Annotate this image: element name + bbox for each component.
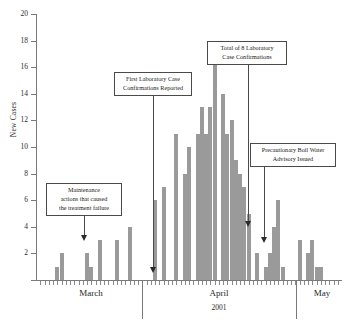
y-tick-18 bbox=[31, 41, 36, 42]
leader-maintenance bbox=[84, 215, 85, 237]
y-tick-label-10: 10 bbox=[2, 143, 28, 151]
bar bbox=[213, 41, 217, 280]
arrow-first-confirmation bbox=[150, 267, 156, 273]
x-tick bbox=[168, 281, 169, 285]
x-tick bbox=[210, 281, 211, 285]
bar bbox=[255, 253, 259, 280]
x-tick bbox=[117, 281, 118, 285]
x-tick bbox=[62, 281, 63, 285]
y-tick-label-14: 14 bbox=[2, 90, 28, 98]
month-separator-march-april bbox=[142, 281, 143, 319]
x-tick bbox=[130, 281, 131, 285]
y-tick-8 bbox=[31, 174, 36, 175]
x-tick bbox=[113, 281, 114, 285]
x-tick bbox=[49, 281, 50, 285]
bar bbox=[115, 240, 119, 280]
x-tick bbox=[134, 281, 135, 285]
y-tick-label-6: 6 bbox=[2, 196, 28, 204]
x-tick bbox=[198, 281, 199, 285]
annotation-first-confirmation-line2: Confirmations Reported bbox=[118, 84, 188, 93]
month-separator-april-may bbox=[296, 281, 297, 319]
bar bbox=[174, 134, 178, 280]
annotation-first-confirmation-line1: First Laboratory Case bbox=[118, 75, 188, 84]
bar bbox=[89, 267, 93, 280]
x-tick bbox=[176, 281, 177, 285]
annotation-total-confirmations-line1: Total of 8 Laboratory bbox=[211, 44, 283, 53]
x-tick bbox=[287, 281, 288, 285]
y-tick-20 bbox=[31, 14, 36, 15]
bar bbox=[60, 253, 64, 280]
bar bbox=[298, 240, 302, 280]
leader-boil-water bbox=[264, 165, 265, 239]
y-tick-label-16: 16 bbox=[2, 63, 28, 71]
x-tick bbox=[244, 281, 245, 285]
x-tick bbox=[108, 281, 109, 285]
x-tick bbox=[312, 281, 313, 285]
x-tick bbox=[74, 281, 75, 285]
x-tick bbox=[317, 281, 318, 285]
x-tick bbox=[138, 281, 139, 285]
annotation-boil-water-line2: Advisory Issued bbox=[254, 155, 332, 164]
bar bbox=[98, 240, 102, 280]
x-tick bbox=[232, 281, 233, 285]
x-tick bbox=[240, 281, 241, 285]
x-tick bbox=[155, 281, 156, 285]
x-tick bbox=[308, 281, 309, 285]
x-tick bbox=[159, 281, 160, 285]
x-tick bbox=[189, 281, 190, 285]
y-tick-6 bbox=[31, 200, 36, 201]
x-tick bbox=[329, 281, 330, 285]
x-tick bbox=[236, 281, 237, 285]
arrow-total-confirmations bbox=[245, 221, 251, 227]
leader-first-confirmation bbox=[153, 93, 154, 269]
x-tick bbox=[291, 281, 292, 285]
y-tick-label-18: 18 bbox=[2, 37, 28, 45]
y-tick-label-2: 2 bbox=[2, 249, 28, 257]
x-tick bbox=[334, 281, 335, 285]
leader-total-confirmations bbox=[248, 62, 249, 223]
annotation-boil-water-line1: Precautionary Boil Water bbox=[254, 146, 332, 155]
arrow-boil-water bbox=[261, 237, 267, 243]
x-tick bbox=[172, 281, 173, 285]
bar bbox=[187, 147, 191, 280]
x-tick bbox=[223, 281, 224, 285]
y-tick-label-8: 8 bbox=[2, 170, 28, 178]
x-tick bbox=[40, 281, 41, 285]
annotation-maintenance-line2: actions that caused bbox=[50, 195, 118, 204]
month-label-may: May bbox=[300, 288, 344, 298]
y-tick-12 bbox=[31, 120, 36, 121]
month-label-april: April bbox=[184, 288, 254, 298]
x-tick bbox=[181, 281, 182, 285]
x-tick bbox=[193, 281, 194, 285]
y-tick-label-12: 12 bbox=[2, 116, 28, 124]
x-tick bbox=[83, 281, 84, 285]
y-tick-label-4: 4 bbox=[2, 223, 28, 231]
x-tick bbox=[45, 281, 46, 285]
arrow-maintenance bbox=[81, 235, 87, 241]
bar bbox=[128, 227, 132, 280]
x-tick bbox=[274, 281, 275, 285]
x-tick bbox=[206, 281, 207, 285]
x-tick bbox=[87, 281, 88, 285]
annotation-total-confirmations-line2: Case Confirmations bbox=[211, 53, 283, 62]
x-tick bbox=[257, 281, 258, 285]
x-tick bbox=[164, 281, 165, 285]
x-tick bbox=[325, 281, 326, 285]
x-tick bbox=[219, 281, 220, 285]
y-tick-16 bbox=[31, 67, 36, 68]
x-tick bbox=[278, 281, 279, 285]
y-tick-14 bbox=[31, 94, 36, 95]
x-tick bbox=[300, 281, 301, 285]
annotation-maintenance-line3: the treatment failure bbox=[50, 204, 118, 213]
x-tick bbox=[215, 281, 216, 285]
x-tick bbox=[202, 281, 203, 285]
x-tick bbox=[100, 281, 101, 285]
x-tick bbox=[270, 281, 271, 285]
x-tick bbox=[53, 281, 54, 285]
epidemic-curve-chart: New Cases 2468101214161820 March April M… bbox=[0, 0, 348, 326]
x-tick bbox=[338, 281, 339, 285]
x-tick bbox=[151, 281, 152, 285]
x-tick bbox=[66, 281, 67, 285]
y-axis-spine bbox=[36, 14, 37, 280]
x-tick bbox=[79, 281, 80, 285]
